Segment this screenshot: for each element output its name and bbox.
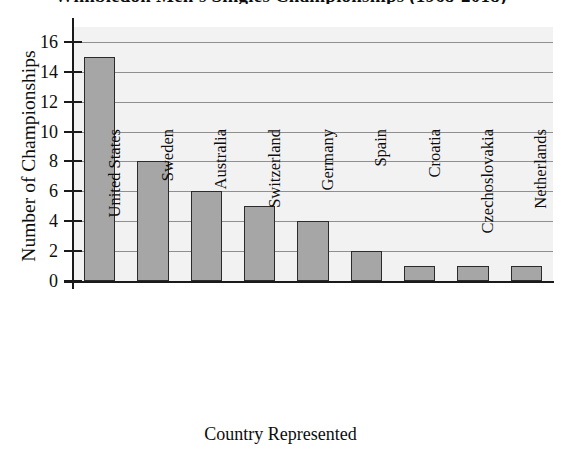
y-tick-label: 10 — [20, 123, 58, 141]
x-tick-label: United States — [106, 129, 123, 289]
x-tick-label: Germany — [319, 129, 336, 289]
y-tick-label: 14 — [20, 63, 58, 81]
x-tick-label-text: Germany — [319, 129, 336, 190]
x-tick-label-text: Croatia — [426, 129, 443, 178]
gridline — [73, 72, 553, 73]
y-tick-mark — [64, 131, 82, 133]
y-tick-mark — [64, 160, 82, 162]
x-tick-label-text: Sweden — [159, 129, 176, 181]
x-tick-label: Sweden — [159, 129, 176, 289]
bar-chart-figure: Wimbledon Men's Singles Championships (1… — [0, 0, 561, 451]
y-tick-label: 12 — [20, 93, 58, 111]
y-tick-mark — [64, 190, 82, 192]
gridline — [73, 102, 553, 103]
y-tick-mark — [64, 101, 82, 103]
x-tick-label-text: Spain — [372, 129, 389, 167]
x-tick-label-text: United States — [106, 129, 123, 217]
y-tick-label: 4 — [20, 212, 58, 230]
y-tick-label: 16 — [20, 33, 58, 51]
y-tick-label: 0 — [20, 272, 58, 290]
x-tick-label: Spain — [372, 129, 389, 289]
x-tick-label: Croatia — [426, 129, 443, 289]
y-tick-label: 6 — [20, 182, 58, 200]
x-tick-label-text: Netherlands — [532, 129, 549, 209]
y-tick-mark — [64, 250, 82, 252]
x-tick-label: Switzerland — [266, 129, 283, 289]
x-tick-label: Netherlands — [532, 129, 549, 289]
chart-title: Wimbledon Men's Singles Championships (1… — [0, 0, 561, 4]
x-tick-label: Czechoslovakia — [479, 129, 496, 289]
y-tick-mark — [64, 220, 82, 222]
x-tick-label-text: Australia — [212, 129, 229, 189]
gridline — [73, 42, 553, 43]
y-tick-label: 8 — [20, 152, 58, 170]
y-tick-mark — [64, 280, 82, 282]
y-tick-label: 2 — [20, 242, 58, 260]
x-axis-title: Country Represented — [0, 424, 561, 445]
y-tick-mark — [64, 41, 82, 43]
x-tick-label-text: Switzerland — [266, 129, 283, 208]
y-axis-line — [72, 18, 74, 289]
x-tick-label: Australia — [212, 129, 229, 289]
y-tick-mark — [64, 71, 82, 73]
x-tick-label-text: Czechoslovakia — [479, 129, 496, 233]
